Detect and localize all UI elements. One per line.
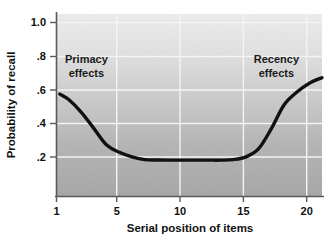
- ytick-label-0.2: .2: [37, 151, 46, 163]
- ytick-label-0.4: .4: [37, 117, 47, 129]
- xtick-label-15: 15: [237, 205, 249, 217]
- xtick-label-20: 20: [301, 205, 313, 217]
- recency-label-line1: Recency: [254, 53, 300, 65]
- y-axis-ticks: [50, 23, 56, 158]
- primacy-label-line2: effects: [69, 67, 104, 79]
- serial-position-curve-figure: 1.0 .8 .6 .4 .2 1 5 10 15 20 Serial posi…: [0, 0, 336, 239]
- x-axis-tick-labels: 1 5 10 15 20: [53, 205, 312, 217]
- ytick-label-0.8: .8: [37, 50, 46, 62]
- primacy-label-line1: Primacy: [65, 53, 109, 65]
- ytick-label-1.0: 1.0: [31, 16, 46, 28]
- y-axis-tick-labels: 1.0 .8 .6 .4 .2: [31, 16, 47, 163]
- xtick-label-5: 5: [114, 205, 120, 217]
- recency-label-line2: effects: [259, 67, 294, 79]
- x-axis-title: Serial position of items: [127, 222, 254, 234]
- ytick-label-0.6: .6: [37, 84, 46, 96]
- chart-canvas: 1.0 .8 .6 .4 .2 1 5 10 15 20 Serial posi…: [0, 0, 336, 239]
- xtick-label-10: 10: [174, 205, 186, 217]
- y-axis-title: Probability of recall: [5, 52, 17, 159]
- xtick-label-1: 1: [53, 205, 59, 217]
